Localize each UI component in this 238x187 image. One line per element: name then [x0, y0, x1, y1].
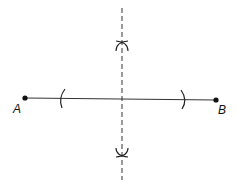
point-a [22, 95, 27, 100]
point-b [213, 97, 218, 102]
segment-ab [25, 98, 216, 100]
diagram-canvas: A B [0, 0, 238, 187]
label-b: B [218, 103, 226, 117]
label-a: A [12, 102, 21, 116]
